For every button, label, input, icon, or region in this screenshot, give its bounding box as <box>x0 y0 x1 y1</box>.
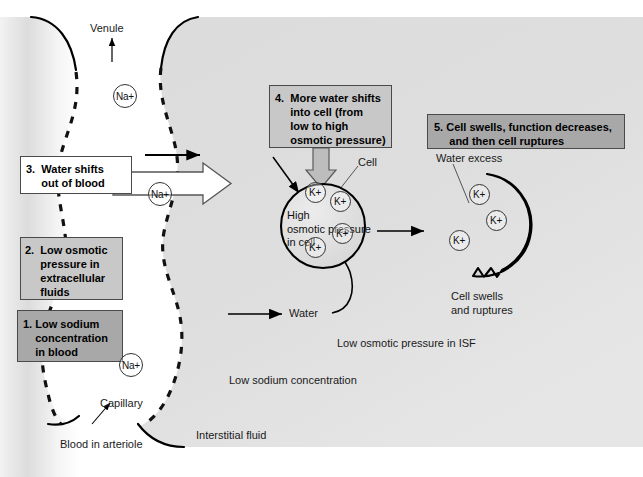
label-water: Water <box>289 307 318 321</box>
step-box-4[interactable]: 4. More water shifts into cell (from low… <box>269 85 392 148</box>
step-box-5[interactable]: 5. Cell swells, function decreases, and … <box>427 114 625 149</box>
sodium-ion: Na+ <box>119 353 143 377</box>
label-water-excess: Water excess <box>436 152 502 166</box>
step-box-1[interactable]: 1. Low sodium concentration in blood <box>17 310 123 362</box>
interstitial-fluid-region <box>140 17 643 447</box>
step-box-2[interactable]: 2. Low osmotic pressure in extracellular… <box>20 237 123 300</box>
label-venule: Venule <box>90 22 124 36</box>
label-interstitial-fluid: Interstitial fluid <box>196 429 266 443</box>
label-cell: Cell <box>358 156 377 170</box>
potassium-ion: K+ <box>332 223 353 244</box>
potassium-ion: K+ <box>330 191 351 212</box>
diagram-canvas: Venule Capillary Blood in arteriole Inte… <box>0 0 643 477</box>
potassium-ion: K+ <box>469 184 490 205</box>
potassium-ion: K+ <box>305 237 326 258</box>
potassium-ion: K+ <box>486 210 507 231</box>
potassium-ion: K+ <box>305 182 326 203</box>
sodium-ion: Na+ <box>148 182 172 206</box>
potassium-ion: K+ <box>449 230 470 251</box>
label-high-osmotic-pressure-in-cell: High osmotic pressure in cell <box>287 209 371 250</box>
sodium-ion: Na+ <box>113 84 137 108</box>
step-box-3[interactable]: 3. Water shifts out of blood <box>20 156 132 194</box>
label-low-sodium-concentration: Low sodium concentration <box>229 374 357 388</box>
label-blood-in-arteriole: Blood in arteriole <box>60 438 143 452</box>
label-low-osmotic-pressure-isf: Low osmotic pressure in ISF <box>337 337 476 351</box>
label-capillary: Capillary <box>100 397 143 411</box>
label-cell-swells-and-ruptures: Cell swells and ruptures <box>451 290 513 318</box>
